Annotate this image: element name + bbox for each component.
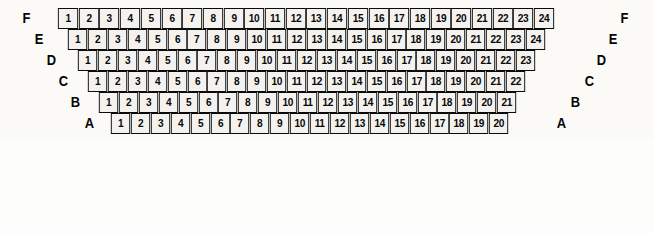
seat-d-8[interactable]: 8 [217,50,237,71]
seat-a-15[interactable]: 15 [390,113,410,134]
seat-f-11[interactable]: 11 [265,8,285,29]
seat-c-18[interactable]: 18 [426,71,446,92]
seat-f-3[interactable]: 3 [99,8,119,29]
seat-f-6[interactable]: 6 [161,8,181,29]
seat-a-16[interactable]: 16 [409,113,429,134]
seat-f-16[interactable]: 16 [368,8,388,29]
seat-b-17[interactable]: 17 [417,92,437,113]
seat-f-5[interactable]: 5 [141,8,161,29]
seat-c-2[interactable]: 2 [108,71,128,92]
seat-e-11[interactable]: 11 [267,29,287,50]
seat-c-19[interactable]: 19 [446,71,466,92]
seat-b-8[interactable]: 8 [238,92,258,113]
seat-a-7[interactable]: 7 [230,113,250,134]
seat-b-11[interactable]: 11 [298,92,318,113]
seat-f-7[interactable]: 7 [182,8,202,29]
seat-e-3[interactable]: 3 [108,29,128,50]
seat-f-8[interactable]: 8 [203,8,223,29]
seat-f-1[interactable]: 1 [58,8,78,29]
seat-b-20[interactable]: 20 [477,92,497,113]
seat-a-1[interactable]: 1 [111,113,131,134]
seat-a-6[interactable]: 6 [210,113,230,134]
seat-d-10[interactable]: 10 [257,50,277,71]
seat-a-18[interactable]: 18 [449,113,469,134]
seat-d-15[interactable]: 15 [357,50,377,71]
seat-d-2[interactable]: 2 [98,50,118,71]
seat-b-1[interactable]: 1 [99,92,119,113]
seat-c-21[interactable]: 21 [486,71,506,92]
seat-f-24[interactable]: 24 [534,8,554,29]
seat-d-3[interactable]: 3 [118,50,138,71]
seat-d-11[interactable]: 11 [277,50,297,71]
seat-c-7[interactable]: 7 [207,71,227,92]
seat-e-14[interactable]: 14 [327,29,347,50]
seat-c-8[interactable]: 8 [227,71,247,92]
seat-a-12[interactable]: 12 [330,113,350,134]
seat-a-14[interactable]: 14 [370,113,390,134]
seat-d-23[interactable]: 23 [516,50,536,71]
seat-d-22[interactable]: 22 [496,50,516,71]
seat-b-21[interactable]: 21 [497,92,517,113]
seat-b-15[interactable]: 15 [378,92,398,113]
seat-e-12[interactable]: 12 [287,29,307,50]
seat-a-9[interactable]: 9 [270,113,290,134]
seat-d-20[interactable]: 20 [456,50,476,71]
seat-c-22[interactable]: 22 [506,71,526,92]
seat-a-20[interactable]: 20 [489,113,509,134]
seat-d-5[interactable]: 5 [157,50,177,71]
seat-f-14[interactable]: 14 [327,8,347,29]
seat-f-13[interactable]: 13 [306,8,326,29]
seat-c-3[interactable]: 3 [128,71,148,92]
seat-e-24[interactable]: 24 [526,29,546,50]
seat-e-10[interactable]: 10 [247,29,267,50]
seat-c-5[interactable]: 5 [167,71,187,92]
seat-f-17[interactable]: 17 [389,8,409,29]
seat-b-10[interactable]: 10 [278,92,298,113]
seat-d-13[interactable]: 13 [317,50,337,71]
seat-a-13[interactable]: 13 [350,113,370,134]
seat-d-4[interactable]: 4 [138,50,158,71]
seat-d-21[interactable]: 21 [476,50,496,71]
seat-b-16[interactable]: 16 [397,92,417,113]
seat-a-11[interactable]: 11 [310,113,330,134]
seat-e-17[interactable]: 17 [386,29,406,50]
seat-d-17[interactable]: 17 [396,50,416,71]
seat-d-6[interactable]: 6 [177,50,197,71]
seat-a-8[interactable]: 8 [250,113,270,134]
seat-a-2[interactable]: 2 [131,113,151,134]
seat-d-1[interactable]: 1 [78,50,98,71]
seat-b-18[interactable]: 18 [437,92,457,113]
seat-b-2[interactable]: 2 [119,92,139,113]
seat-e-15[interactable]: 15 [347,29,367,50]
seat-a-5[interactable]: 5 [190,113,210,134]
seat-f-9[interactable]: 9 [224,8,244,29]
seat-d-9[interactable]: 9 [237,50,257,71]
seat-a-10[interactable]: 10 [290,113,310,134]
seat-c-1[interactable]: 1 [88,71,108,92]
seat-b-5[interactable]: 5 [178,92,198,113]
seat-e-22[interactable]: 22 [486,29,506,50]
seat-f-10[interactable]: 10 [244,8,264,29]
seat-c-16[interactable]: 16 [386,71,406,92]
seat-c-9[interactable]: 9 [247,71,267,92]
seat-d-14[interactable]: 14 [337,50,357,71]
seat-e-6[interactable]: 6 [167,29,187,50]
seat-d-18[interactable]: 18 [416,50,436,71]
seat-e-23[interactable]: 23 [506,29,526,50]
seat-b-7[interactable]: 7 [218,92,238,113]
seat-f-4[interactable]: 4 [120,8,140,29]
seat-b-6[interactable]: 6 [198,92,218,113]
seat-c-10[interactable]: 10 [267,71,287,92]
seat-e-7[interactable]: 7 [187,29,207,50]
seat-f-2[interactable]: 2 [79,8,99,29]
seat-f-22[interactable]: 22 [493,8,513,29]
seat-c-13[interactable]: 13 [327,71,347,92]
seat-c-12[interactable]: 12 [307,71,327,92]
seat-e-9[interactable]: 9 [227,29,247,50]
seat-e-18[interactable]: 18 [406,29,426,50]
seat-e-5[interactable]: 5 [147,29,167,50]
seat-b-19[interactable]: 19 [457,92,477,113]
seat-e-21[interactable]: 21 [466,29,486,50]
seat-e-16[interactable]: 16 [366,29,386,50]
seat-b-4[interactable]: 4 [159,92,179,113]
